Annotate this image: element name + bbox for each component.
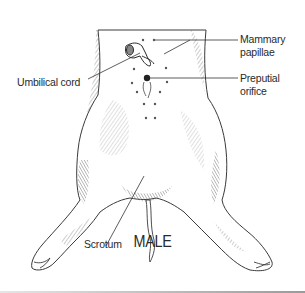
label-preputial-line2: orifice <box>240 85 280 98</box>
label-preputial-orifice: Preputial orifice <box>240 72 280 98</box>
tail <box>146 200 155 262</box>
label-umbilical-cord: Umbilical cord <box>17 76 80 89</box>
label-mammary-papillae: Mammary papillae <box>240 33 285 59</box>
figure-caption: MALE <box>15 233 290 251</box>
label-mammary-line1: Mammary <box>240 33 285 46</box>
label-preputial-line1: Preputial <box>240 72 280 85</box>
label-mammary-line2: papillae <box>240 46 285 59</box>
